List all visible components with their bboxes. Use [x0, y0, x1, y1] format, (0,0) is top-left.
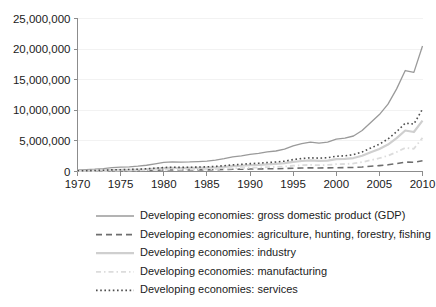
- y-tick-label: 20,000,000: [13, 43, 71, 55]
- x-tick-label: 1985: [194, 178, 220, 190]
- y-tick-label: 25,000,000: [13, 13, 71, 25]
- legend-label-3: Developing economies: manufacturing: [140, 265, 327, 277]
- legend-label-0: Developing economies: gross domestic pro…: [140, 209, 405, 221]
- legend-label-4: Developing economies: services: [140, 283, 298, 295]
- y-tick-label: 10,000,000: [13, 104, 71, 116]
- x-tick-label: 1975: [108, 178, 134, 190]
- x-axis: [78, 172, 423, 176]
- chart-legend: Developing economies: gross domestic pro…: [96, 209, 431, 295]
- chart-figure: 05,000,00010,000,00015,000,00020,000,000…: [0, 0, 436, 307]
- x-tick-label: 2005: [367, 178, 393, 190]
- x-tick-label: 2010: [410, 178, 436, 190]
- y-axis: [74, 19, 78, 172]
- series-line-4: [78, 109, 423, 171]
- legend-label-2: Developing economies: industry: [140, 246, 296, 258]
- x-tick-label: 2000: [323, 178, 349, 190]
- x-tick-label: 1995: [280, 178, 306, 190]
- x-tick-label: 1990: [237, 178, 263, 190]
- x-tick-label: 1980: [151, 178, 177, 190]
- legend-label-1: Developing economies: agriculture, hunti…: [140, 228, 431, 240]
- x-tick-labels: 197019751980198519901995200020052010: [65, 178, 436, 190]
- x-tick-label: 1970: [65, 178, 91, 190]
- y-tick-labels: 05,000,00010,000,00015,000,00020,000,000…: [13, 13, 71, 178]
- y-tick-label: 0: [64, 166, 70, 178]
- line-chart: 05,000,00010,000,00015,000,00020,000,000…: [0, 0, 436, 307]
- series-lines: [78, 46, 423, 171]
- y-tick-label: 15,000,000: [13, 74, 71, 86]
- y-tick-label: 5,000,000: [19, 135, 70, 147]
